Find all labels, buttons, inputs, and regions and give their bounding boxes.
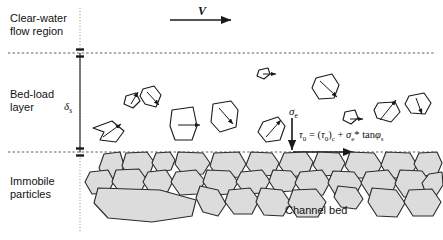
bed-particle	[152, 152, 175, 172]
clear-water-line1: Clear-water	[10, 12, 67, 25]
channel-bed-label: Channel bed	[285, 204, 347, 217]
clear-water-line2: flow region	[10, 25, 67, 38]
sigma-e-symbol: σe	[289, 105, 298, 120]
eq-tan: tan	[360, 129, 375, 140]
delta-s-symbol: δs	[64, 100, 72, 115]
immobile-line2: particles	[10, 188, 55, 201]
immobile-particles	[85, 152, 443, 222]
region-label-immobile: Immobile particles	[10, 175, 55, 201]
region-label-clear-water: Clear-water flow region	[10, 12, 67, 38]
shear-stress-equation: τ0 = (τ0)c + σe* tanφs	[299, 129, 384, 143]
bed-load-line1: Bed-load	[10, 88, 54, 101]
velocity-symbol: V	[198, 4, 206, 19]
eq-plus: +	[335, 129, 346, 140]
bed-load-line2: layer	[10, 101, 54, 114]
sigma-subscript: e	[294, 111, 297, 120]
immobile-line1: Immobile	[10, 175, 55, 188]
eq-equals: = (	[306, 129, 321, 140]
region-label-bed-load: Bed-load layer	[10, 88, 54, 114]
eq-phi-sub: s	[381, 135, 384, 143]
delta-subscript: s	[69, 106, 72, 115]
